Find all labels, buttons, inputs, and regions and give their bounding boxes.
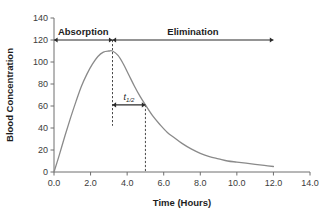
half-life-label: t1/2 [124,92,136,103]
x-tick-label: 12.0 [265,178,283,188]
x-tick-label: 6.0 [157,178,170,188]
x-tick-label: 0.0 [48,178,61,188]
absorption-label: Absorption [58,26,109,37]
curve-path [54,51,273,172]
x-axis-title: Time (Hours) [153,197,211,208]
y-tick-label: 100 [33,57,48,67]
y-tick-label: 60 [38,101,48,111]
y-tick-label: 0 [43,167,48,177]
x-tick-label: 8.0 [194,178,207,188]
guide-lines [113,40,146,172]
y-tick-label: 40 [38,123,48,133]
x-axis: 0.02.04.06.08.010.012.014.0 [48,172,319,188]
y-tick-label: 80 [38,79,48,89]
x-tick-label: 2.0 [84,178,97,188]
y-tick-label: 20 [38,145,48,155]
x-tick-label: 10.0 [228,178,246,188]
x-tick-label: 14.0 [301,178,319,188]
elimination-label: Elimination [167,26,218,37]
elimination-annotation: Elimination [113,26,274,43]
half-life-annotation: t1/2 [113,92,146,108]
y-tick-label: 140 [33,13,48,23]
y-axis-title: Blood Concentration [4,48,15,142]
y-axis: 020406080100120140 [33,13,54,177]
concentration-curve [54,51,273,172]
pharmacokinetics-chart: 020406080100120140 0.02.04.06.08.010.012… [0,0,336,213]
chart-canvas: 020406080100120140 0.02.04.06.08.010.012… [0,0,336,213]
y-tick-label: 120 [33,35,48,45]
absorption-annotation: Absorption [54,26,113,43]
x-tick-label: 4.0 [121,178,134,188]
phase-annotations: AbsorptionEliminationt1/2 [54,26,273,108]
